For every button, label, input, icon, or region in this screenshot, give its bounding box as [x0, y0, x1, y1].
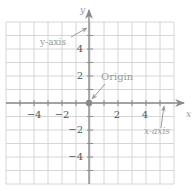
- x-tick-label: 2: [114, 109, 120, 120]
- x-tick-label: −2: [55, 109, 70, 120]
- x-tick-labels: −4 −2 2 4: [27, 109, 149, 120]
- annotation-origin: Origin: [92, 71, 134, 99]
- origin-dot: [86, 100, 92, 106]
- x-axis-annotation-label: x-axis: [144, 126, 170, 136]
- y-tick-label: −4: [68, 151, 83, 162]
- origin-annotation-label: Origin: [101, 71, 134, 82]
- y-tick-label: 2: [77, 70, 83, 81]
- axes: [6, 10, 184, 184]
- x-axis-letter: x: [186, 109, 191, 119]
- coordinate-plane-diagram: −4 −2 2 4 4 2 −2 −4 y x y-axis Origin x-…: [0, 0, 194, 191]
- y-axis-letter: y: [79, 5, 86, 15]
- coordinate-plane-svg: −4 −2 2 4 4 2 −2 −4 y x y-axis Origin x-…: [0, 0, 194, 191]
- x-tick-label: 4: [142, 109, 148, 120]
- x-tick-label: −4: [27, 109, 42, 120]
- origin-pointer-arrow: [92, 84, 105, 99]
- y-tick-label: 4: [77, 43, 83, 54]
- y-axis-annotation-label: y-axis: [39, 37, 66, 47]
- y-tick-label: −2: [68, 124, 83, 135]
